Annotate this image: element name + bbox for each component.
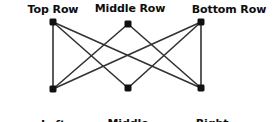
- node-right-column: [198, 85, 205, 92]
- label-right-column: Right Column: [189, 94, 235, 122]
- label-bottom-row: Bottom Row: [192, 4, 267, 16]
- diagram-canvas: Top Row Middle Row Bottom Row Left Colum…: [0, 0, 279, 122]
- label-right-column-line1: Right: [189, 118, 235, 122]
- label-left-column: Left Column: [30, 95, 76, 122]
- label-middle-column-line1: Middle: [105, 118, 151, 122]
- edge-top-row-middle-column: [53, 22, 128, 88]
- label-top-row: Top Row: [28, 4, 79, 16]
- node-left-column: [50, 86, 57, 93]
- label-left-column-line1: Left: [30, 119, 76, 122]
- edge-group: [53, 22, 201, 89]
- node-bottom-row: [198, 19, 205, 26]
- label-middle-column: Middle Column: [105, 94, 151, 122]
- node-top-row: [50, 19, 57, 26]
- edge-middle-row-left-column: [53, 24, 128, 89]
- node-middle-column: [125, 85, 132, 92]
- label-middle-row: Middle Row: [95, 3, 166, 15]
- node-middle-row: [125, 21, 132, 28]
